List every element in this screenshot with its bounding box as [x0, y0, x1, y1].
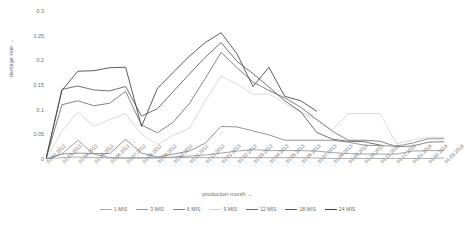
legend-line-swatch	[173, 209, 185, 210]
legend-item-label: 12 MIS	[260, 206, 276, 212]
legend-item-label: 3 MIS	[150, 206, 164, 212]
chart-legend: 1 MIS3 MIS6 MIS9 MIS12 MIS18 MIS24 MIS	[0, 206, 455, 212]
series-lines	[46, 11, 444, 159]
legend-item-label: 6 MIS	[187, 206, 201, 212]
plot-area	[46, 11, 444, 159]
legend-item-label: 9 MIS	[223, 206, 237, 212]
series-line-18-mis	[46, 43, 380, 159]
y-axis-title: damage rate →	[8, 18, 14, 98]
legend-item-24-mis[interactable]: 24 MIS	[325, 206, 355, 212]
legend-item-12-mis[interactable]: 12 MIS	[246, 206, 276, 212]
legend-item-label: 1 MIS	[114, 206, 128, 212]
legend-item-label: 24 MIS	[339, 206, 355, 212]
y-axis-tick-label: 0.1	[37, 107, 45, 113]
y-axis-tick-label: 0.3	[37, 8, 45, 14]
legend-line-swatch	[246, 209, 258, 210]
legend-line-swatch	[136, 209, 148, 210]
y-axis-tick-label: 0.05	[34, 131, 45, 137]
legend-item-label: 18 MIS	[299, 206, 315, 212]
y-axis-tick-label: 0	[41, 156, 44, 162]
y-axis-tick-label: 0.25	[34, 33, 45, 39]
legend-line-swatch	[209, 209, 221, 210]
y-axis-tick-label: 0.15	[34, 82, 45, 88]
series-line-24-mis	[46, 33, 317, 159]
y-axis-tick-labels: 00.050.10.150.20.250.3	[24, 0, 44, 160]
legend-item-9-mis[interactable]: 9 MIS	[209, 206, 237, 212]
y-axis-tick-label: 0.2	[37, 57, 45, 63]
x-axis-tick-labels: 01.02.201201.03.201201.04.201201.05.2012…	[46, 160, 444, 194]
legend-line-swatch	[100, 209, 112, 210]
legend-line-swatch	[285, 209, 297, 210]
legend-item-6-mis[interactable]: 6 MIS	[173, 206, 201, 212]
legend-item-18-mis[interactable]: 18 MIS	[285, 206, 315, 212]
legend-item-1-mis[interactable]: 1 MIS	[100, 206, 128, 212]
x-axis-title: production month →	[0, 191, 455, 197]
legend-item-3-mis[interactable]: 3 MIS	[136, 206, 164, 212]
legend-line-swatch	[325, 209, 337, 210]
